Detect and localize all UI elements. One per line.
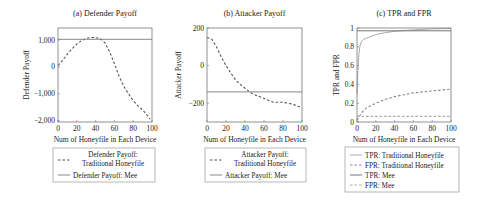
x-tick-label: 60 [111, 124, 119, 133]
legend-label: TPR: Traditional Honeyfile [365, 152, 444, 160]
x-tick-label: 100 [445, 124, 457, 133]
x-tick-label: 60 [410, 124, 418, 133]
series-line [357, 29, 451, 94]
series-line [58, 37, 150, 119]
y-tick-label: −2,000 [34, 116, 55, 125]
x-tick-label: 40 [92, 124, 100, 133]
x-tick-label: 100 [146, 124, 158, 133]
legend-label: Traditional Honeyfile [234, 160, 296, 168]
y-tick-label: 0 [350, 118, 354, 127]
x-tick-label: 60 [260, 124, 268, 133]
y-tick-label: 0.4 [345, 80, 355, 89]
chart-title: (c) TPR and FPR [376, 9, 432, 18]
y-tick-label: 1 [350, 24, 354, 33]
legend-label: Attacker Payoff: Mee [225, 172, 287, 180]
legend-label: Defender Payoff: [88, 151, 138, 159]
y-tick-label: 1,000 [38, 36, 55, 45]
x-axis-label: Num of Honeyfile in Each Device [203, 135, 306, 144]
y-tick-label: 0.8 [345, 42, 355, 51]
x-tick-label: 80 [428, 124, 436, 133]
legend-label: FPR: Traditional Honeyfile [365, 162, 444, 170]
x-tick-label: 0 [205, 124, 209, 133]
chart-panel-c: (c) TPR and FPR02040608010000.20.40.60.8… [332, 9, 459, 192]
legend: Defender Payoff:Traditional HoneyfileDef… [53, 148, 155, 182]
x-tick-label: 20 [372, 124, 380, 133]
legend-label: FPR: Mee [365, 182, 394, 190]
y-tick-label: 0.6 [345, 61, 355, 70]
legend: TPR: Traditional HoneyfileFPR: Tradition… [345, 147, 459, 192]
legend-label: Attacker Payoff: [241, 151, 289, 159]
x-axis-label: Num of Honeyfile in Each Device [54, 135, 157, 144]
legend-label: TPR: Mee [365, 172, 395, 180]
y-tick-label: 0 [51, 62, 55, 71]
plot-area [207, 28, 302, 122]
y-tick-label: −200 [189, 99, 205, 108]
series-line [357, 89, 451, 120]
legend-label: Defender Payoff: Mee [73, 172, 137, 180]
x-tick-label: 40 [241, 124, 249, 133]
y-axis-label: TPR and FPR [332, 54, 341, 96]
y-axis-label: Attacker Payoff [174, 51, 183, 99]
figure: (a) Defender Payoff020406080100−2,000−1,… [0, 0, 479, 200]
y-tick-label: 0.2 [345, 99, 355, 108]
y-tick-label: 0 [200, 61, 204, 70]
y-axis-label: Defender Payoff [22, 50, 31, 100]
chart-panel-b: (b) Attacker Payoff020406080100−2000200N… [174, 9, 308, 182]
y-tick-label: −1,000 [34, 89, 55, 98]
x-axis-label: Num of Honeyfile in Each Device [353, 135, 456, 144]
x-tick-label: 40 [391, 124, 399, 133]
x-tick-label: 20 [73, 124, 81, 133]
legend-label: Traditional Honeyfile [82, 160, 144, 168]
y-tick-label: 200 [193, 24, 205, 33]
x-tick-label: 80 [279, 124, 287, 133]
x-tick-label: 0 [56, 124, 60, 133]
plot-area [357, 28, 451, 122]
series-line [207, 37, 300, 107]
x-tick-label: 20 [222, 124, 230, 133]
chart-title: (a) Defender Payoff [73, 9, 137, 18]
x-tick-label: 0 [355, 124, 359, 133]
chart-title: (b) Attacker Payoff [224, 9, 286, 18]
chart-panel-a: (a) Defender Payoff020406080100−2,000−1,… [22, 9, 158, 182]
x-tick-label: 80 [129, 124, 137, 133]
x-tick-label: 100 [296, 124, 308, 133]
legend: Attacker Payoff:Traditional HoneyfileAtt… [205, 148, 306, 182]
